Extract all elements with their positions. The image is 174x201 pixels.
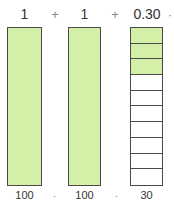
plus-operator-1: + bbox=[44, 7, 66, 23]
term-1: 1 bbox=[7, 6, 42, 22]
tenth-cell-empty bbox=[131, 122, 162, 138]
tenths-block bbox=[130, 27, 163, 186]
tenth-cell-empty bbox=[131, 106, 162, 122]
term-2: 1 bbox=[68, 6, 101, 22]
plus-operator-2: + bbox=[103, 7, 127, 23]
whole-block-1 bbox=[7, 27, 42, 186]
term-3: 0.30 bbox=[128, 6, 166, 22]
tenth-cell-empty bbox=[131, 154, 162, 170]
tenth-cell-empty bbox=[131, 169, 162, 185]
block-2-label: 100 bbox=[68, 189, 101, 201]
separator-1: . bbox=[53, 188, 56, 199]
tenth-cell-filled bbox=[131, 44, 162, 60]
whole-block-2 bbox=[68, 27, 101, 186]
trailing-mark: · bbox=[166, 7, 174, 23]
tenth-cell-empty bbox=[131, 91, 162, 107]
tenth-cell-filled bbox=[131, 28, 162, 44]
separator-2: . bbox=[115, 188, 118, 199]
tenth-cell-empty bbox=[131, 75, 162, 91]
tenth-cell-empty bbox=[131, 138, 162, 154]
tenth-cell-filled bbox=[131, 59, 162, 75]
block-3-label: 30 bbox=[130, 189, 163, 201]
block-1-label: 100 bbox=[7, 189, 42, 201]
